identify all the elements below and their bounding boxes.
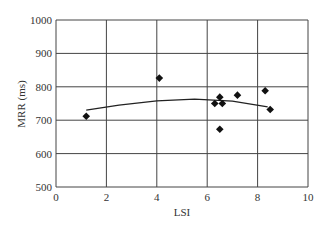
- trend-curve: [86, 99, 267, 110]
- grid-lines: [56, 20, 308, 187]
- x-axis-label: LSI: [174, 206, 191, 218]
- data-point-marker: [261, 87, 269, 95]
- y-tick: 500: [36, 181, 53, 193]
- x-tick: 6: [204, 191, 210, 203]
- y-tick: 700: [36, 114, 53, 126]
- x-tick-labels: 0246810: [53, 191, 314, 203]
- x-tick: 2: [104, 191, 110, 203]
- x-tick: 0: [53, 191, 59, 203]
- x-tick: 8: [255, 191, 261, 203]
- data-point-marker: [234, 91, 242, 99]
- x-tick: 4: [154, 191, 160, 203]
- data-point-marker: [82, 112, 90, 120]
- y-tick: 600: [36, 148, 53, 160]
- y-axis-label: MRR (ms): [15, 80, 28, 128]
- scatter-chart: 0246810 5006007008009001000 LSI MRR (ms): [0, 0, 329, 226]
- data-point-marker: [216, 125, 224, 133]
- y-tick: 800: [36, 81, 53, 93]
- y-tick: 1000: [30, 14, 53, 26]
- y-tick-labels: 5006007008009001000: [30, 14, 53, 193]
- y-tick: 900: [36, 47, 53, 59]
- x-tick: 10: [303, 191, 315, 203]
